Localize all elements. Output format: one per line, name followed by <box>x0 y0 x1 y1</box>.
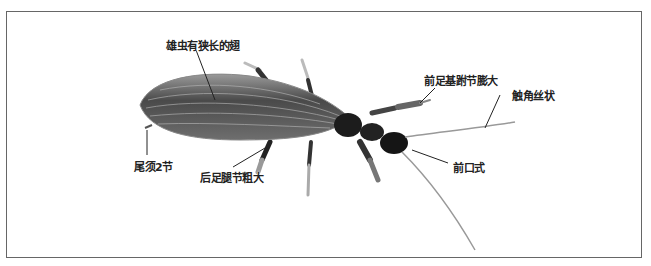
label-fore-tarsus: 前足基跗节膨大 <box>424 72 498 88</box>
head <box>380 132 408 154</box>
thorax <box>334 113 362 137</box>
label-hind-femur: 后足腿节粗大 <box>200 169 263 185</box>
legs-lower <box>258 142 378 195</box>
label-wings: 雄虫有狭长的翅 <box>166 37 240 53</box>
insect-illustration <box>0 0 651 266</box>
label-mouthparts: 前口式 <box>453 159 485 175</box>
label-antenna: 触角丝状 <box>512 87 554 103</box>
wing <box>140 74 350 140</box>
label-cerci: 尾须2节 <box>134 158 173 174</box>
antenna-upper <box>405 122 515 137</box>
